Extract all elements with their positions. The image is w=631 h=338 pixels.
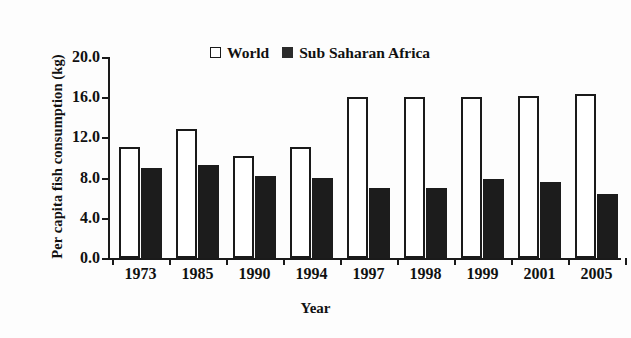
y-tick-label: 8.0	[54, 170, 100, 186]
x-tick-label: 1990	[225, 266, 285, 282]
x-tick-mark	[340, 258, 342, 265]
y-tick-label: 20.0	[54, 49, 100, 65]
x-tick-label: 1999	[453, 266, 513, 282]
bar-group	[347, 57, 390, 258]
bar-group	[461, 57, 504, 258]
x-tick-mark	[283, 258, 285, 265]
x-axis-tick-labels: 197319851990199419971998199920012005	[108, 266, 621, 292]
bar-group	[290, 57, 333, 258]
y-axis-tick-labels: 0.04.08.012.016.020.0	[48, 0, 100, 338]
bar-world	[404, 97, 425, 258]
y-axis-line	[108, 57, 110, 259]
y-tick-mark	[102, 137, 109, 139]
bar-group	[404, 57, 447, 258]
bar-sub-saharan-africa	[141, 168, 162, 258]
x-tick-label: 1994	[282, 266, 342, 282]
fish-consumption-bar-chart: Per capita fish consumption (kg) 0.04.08…	[0, 0, 631, 338]
x-axis-title: Year	[0, 300, 631, 317]
y-tick-label: 0.0	[54, 250, 100, 266]
bar-sub-saharan-africa	[255, 176, 276, 258]
bar-sub-saharan-africa	[369, 188, 390, 258]
y-tick-label: 4.0	[54, 210, 100, 226]
x-tick-label: 1985	[168, 266, 228, 282]
bar-group	[119, 57, 162, 258]
bar-world	[233, 156, 254, 259]
bar-world	[461, 97, 482, 258]
bar-sub-saharan-africa	[312, 178, 333, 258]
x-tick-mark	[511, 258, 513, 265]
x-tick-label: 1997	[339, 266, 399, 282]
bar-world	[176, 129, 197, 258]
y-tick-label: 16.0	[54, 89, 100, 105]
bar-world	[347, 97, 368, 258]
bar-sub-saharan-africa	[483, 179, 504, 258]
bar-group	[176, 57, 219, 258]
y-tick-mark	[102, 178, 109, 180]
x-tick-mark	[112, 258, 114, 265]
bar-group	[575, 57, 618, 258]
bar-group	[233, 57, 276, 258]
bar-sub-saharan-africa	[540, 182, 561, 258]
bar-world	[119, 147, 140, 258]
plot-area	[108, 57, 621, 258]
y-tick-label: 12.0	[54, 129, 100, 145]
bar-world	[575, 94, 596, 258]
bar-sub-saharan-africa	[426, 188, 447, 258]
bar-world	[518, 96, 539, 258]
x-tick-label: 1998	[396, 266, 456, 282]
bar-world	[290, 147, 311, 258]
x-axis-line	[102, 258, 621, 260]
x-tick-label: 2005	[567, 266, 627, 282]
x-tick-mark	[226, 258, 228, 265]
x-tick-mark	[454, 258, 456, 265]
x-tick-label: 1973	[111, 266, 171, 282]
bar-sub-saharan-africa	[597, 194, 618, 258]
bar-sub-saharan-africa	[198, 165, 219, 258]
y-tick-mark	[102, 97, 109, 99]
bar-group	[518, 57, 561, 258]
y-tick-mark	[102, 57, 109, 59]
x-tick-label: 2001	[510, 266, 570, 282]
x-tick-mark	[625, 258, 627, 265]
y-tick-mark	[102, 218, 109, 220]
x-tick-mark	[568, 258, 570, 265]
y-tick-mark	[102, 258, 109, 260]
x-tick-mark	[169, 258, 171, 265]
x-tick-mark	[397, 258, 399, 265]
